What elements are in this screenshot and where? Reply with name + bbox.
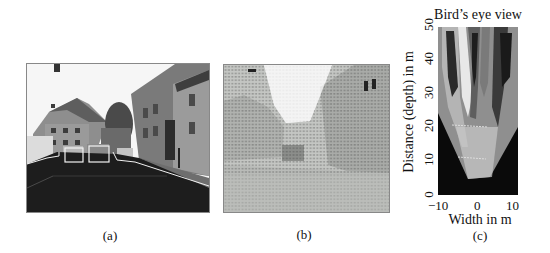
y-tick-40: 40	[422, 52, 435, 65]
y-tick-20: 20	[422, 119, 435, 132]
y-tick-0: 0	[422, 191, 435, 198]
panel-c-birds-eye-plot	[438, 27, 518, 195]
panel-a-camera-image	[26, 63, 210, 213]
bev-title: Bird’s eye view	[420, 7, 536, 23]
vector-field-overlay	[224, 65, 389, 212]
caption-b: (b)	[284, 227, 324, 243]
bev-xlabel: Width in m	[430, 212, 530, 228]
y-tick-30: 30	[422, 86, 435, 99]
caption-c: (c)	[460, 228, 500, 244]
x-tick-0: 0	[474, 199, 481, 212]
y-tick-50: 50	[422, 18, 435, 31]
street-scene-image	[27, 64, 209, 212]
birds-eye-image	[438, 27, 518, 195]
y-tick-10: 10	[422, 153, 435, 166]
x-tick-10: 10	[506, 199, 519, 212]
caption-a: (a)	[90, 228, 130, 244]
bev-ylabel: Distance (depth) in m	[401, 32, 417, 192]
panel-b-vector-field-image	[223, 64, 390, 213]
x-tick-neg10: −10	[428, 199, 448, 212]
